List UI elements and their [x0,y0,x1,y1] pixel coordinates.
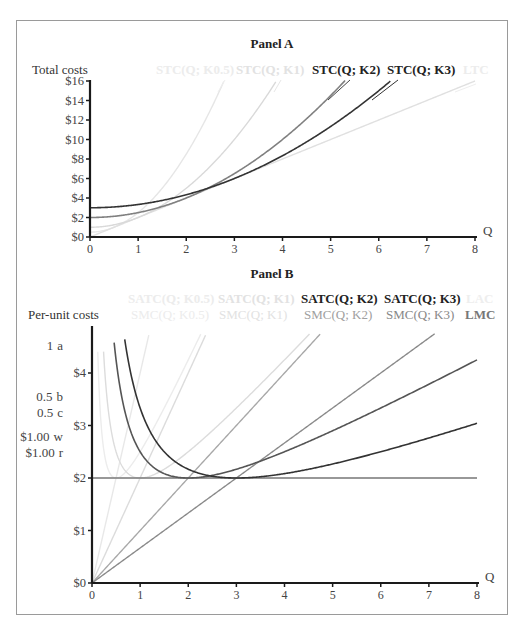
panel-a-y-tick-label: $12 [65,113,84,127]
label-leader-line [372,80,398,100]
panel-a-x-tick-label: 5 [328,242,334,256]
panel-a-x-tick-label: 1 [135,242,141,256]
label-smc-k2: SMC(Q; K2) [304,307,372,322]
panel-b-x-axis-label: Q [485,569,495,584]
panel-b-series-labels: SATC(Q; K0.5) SATC(Q; K1) SATC(Q; K2) SA… [128,291,495,322]
panel-b-curve-smc-q-k1 [92,335,206,583]
panel-a-y-tick-label: $4 [72,191,85,205]
panel-b: Panel B Per-unit costs 012345678$0$1$2$3… [20,266,495,602]
panel-b-y-tick-label: $1 [74,524,87,538]
panel-a-y-tick-label: $2 [72,211,85,225]
panel-b-curve-satc-q-k3 [125,339,477,478]
label-leader-line [218,80,225,92]
label-satc-k3: SATC(Q; K3) [384,291,461,306]
parameter-list: 1a 0.5b 0.5c $1.00w $1.00r [20,338,63,460]
panel-b-y-tick-label: $2 [74,471,87,485]
panel-a-x-tick-label: 2 [183,242,189,256]
panel-b-axes: 012345678$0$1$2$3$4Q [74,326,496,602]
panel-b-curve-smc-q-k3 [92,334,435,583]
panel-a-x-tick-label: 6 [376,242,382,256]
panel-a-curve-stc-q-k1 [90,82,276,227]
param-a: 1a [47,338,64,353]
panel-b-curve-satc-q-k2 [114,343,477,478]
panel-b-curves [92,334,477,583]
label-smc-k1: SMC(Q; K1) [219,307,287,322]
param-b: 0.5b [36,389,63,404]
panel-b-x-tick-label: 5 [330,588,336,602]
label-stc-k3: STC(Q; K3) [387,62,455,77]
panel-a-x-axis-label: Q [483,223,493,238]
panel-a-x-tick-label: 4 [280,242,286,256]
panel-a-axes: 012345678$0$2$4$6$8$10$12$14$16Q [65,74,493,256]
param-c: 0.5c [37,405,63,420]
panel-b-x-tick-label: 1 [137,588,143,602]
panel-a-x-tick-label: 3 [231,242,237,256]
panel-b-curve-smc-q-k0-5 [92,335,149,583]
panel-b-x-tick-label: 6 [378,588,384,602]
panel-b-x-tick-label: 4 [282,588,288,602]
panel-a-y-tick-label: $0 [72,230,85,244]
panel-a-x-tick-label: 7 [424,242,430,256]
label-satc-k2: SATC(Q; K2) [301,291,378,306]
panel-a-x-tick-label: 8 [472,242,478,256]
panel-a-title: Panel A [251,36,295,51]
param-r: $1.00r [25,445,63,460]
panel-b-x-tick-label: 0 [89,588,95,602]
panel-b-y-tick-label: $4 [74,366,87,380]
panel-b-ylabel: Per-unit costs [28,307,99,322]
panel-a-y-tick-label: $16 [65,74,84,88]
panel-b-x-tick-label: 2 [185,588,191,602]
panel-a-y-tick-label: $14 [65,94,85,108]
panel-b-x-tick-label: 3 [233,588,239,602]
label-satc-k1: SATC(Q; K1) [218,291,295,306]
panel-b-curve-smc-q-k2 [92,334,320,583]
panel-a-curves [90,81,475,237]
panel-b-title: Panel B [251,266,294,281]
label-stc-k1: STC(Q; K1) [236,62,304,77]
panel-a-y-tick-label: $8 [72,152,85,166]
panel-b-y-tick-label: $0 [74,576,87,590]
label-stc-k05: STC(Q; K0.5) [156,62,234,77]
label-lac: LAC [466,291,493,306]
panel-a-series-labels: STC(Q; K0.5) STC(Q; K1) STC(Q; K2) STC(Q… [156,62,489,100]
panel-a-x-tick-label: 0 [87,242,93,256]
label-leader-line [328,80,350,100]
label-lmc: LMC [465,307,495,322]
panel-b-y-tick-label: $3 [74,419,87,433]
panel-b-x-tick-label: 7 [426,588,432,602]
param-w: $1.00w [20,429,63,444]
panel-a-y-tick-label: $10 [65,133,84,147]
panel-a-curve-stc-q-k3 [90,81,390,208]
label-smc-k3: SMC(Q; K3) [386,307,454,322]
cost-curves-figure: Panel A Total costs 012345678$0$2$4$6$8$… [0,0,523,630]
panel-b-curve-satc-q-k1 [104,334,310,478]
label-ltc: LTC [463,62,489,77]
panel-a: Panel A Total costs 012345678$0$2$4$6$8$… [32,36,493,256]
panel-a-y-tick-label: $6 [72,172,85,186]
label-satc-k05: SATC(Q; K0.5) [128,291,214,306]
panel-b-x-tick-label: 8 [474,588,480,602]
label-stc-k2: STC(Q; K2) [312,62,380,77]
label-smc-k05: SMC(Q; K0.5) [131,307,209,322]
